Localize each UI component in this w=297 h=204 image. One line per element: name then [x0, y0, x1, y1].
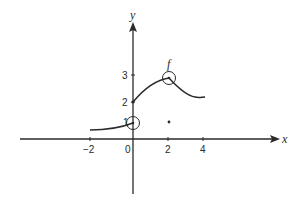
point-at-0-low — [132, 122, 135, 125]
y-tick-label-3: 3 — [122, 70, 128, 81]
y-axis-label: y — [129, 8, 136, 22]
x-axis-label: x — [281, 132, 288, 146]
point-at-2-peak — [168, 77, 171, 80]
function-graph: x y −2 0 2 4 3 2 1 f — [0, 0, 297, 204]
x-tick-label-2: 2 — [165, 144, 171, 155]
function-label: f — [167, 57, 172, 71]
filled-point-at-0-2 — [132, 101, 135, 104]
y-tick-label-2: 2 — [122, 97, 128, 108]
x-tick-label-4: 4 — [200, 144, 206, 155]
x-tick-label-0: 0 — [125, 144, 131, 155]
isolated-point-at-2 — [168, 121, 171, 124]
x-tick-label-neg2: −2 — [83, 144, 95, 155]
